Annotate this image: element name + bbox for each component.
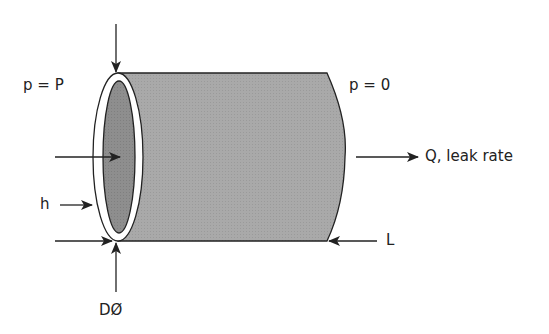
outlet-pressure-label: p = 0	[349, 78, 390, 93]
gap-height-label: h	[40, 197, 50, 212]
leak-rate-label: Q, leak rate	[425, 149, 513, 164]
inlet-pressure-label: p = P	[23, 78, 64, 93]
cylinder-body	[118, 73, 345, 241]
length-label: L	[386, 233, 394, 248]
leak-path-diagram	[0, 0, 549, 334]
diameter-label: DØ	[99, 303, 122, 318]
